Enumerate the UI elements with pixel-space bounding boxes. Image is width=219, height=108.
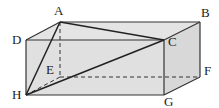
label-C: C	[168, 34, 177, 49]
prism-diagram: A B C D E F G H	[0, 0, 219, 108]
label-D: D	[12, 32, 21, 47]
label-H: H	[12, 87, 21, 102]
label-F: F	[204, 63, 211, 78]
label-E: E	[46, 62, 54, 77]
label-A: A	[54, 3, 64, 18]
label-B: B	[201, 5, 210, 20]
label-G: G	[164, 94, 173, 108]
